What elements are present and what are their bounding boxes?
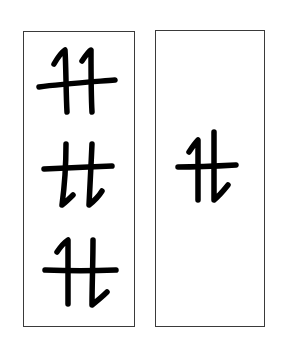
glyph-tt-mixed-compact <box>0 0 283 347</box>
